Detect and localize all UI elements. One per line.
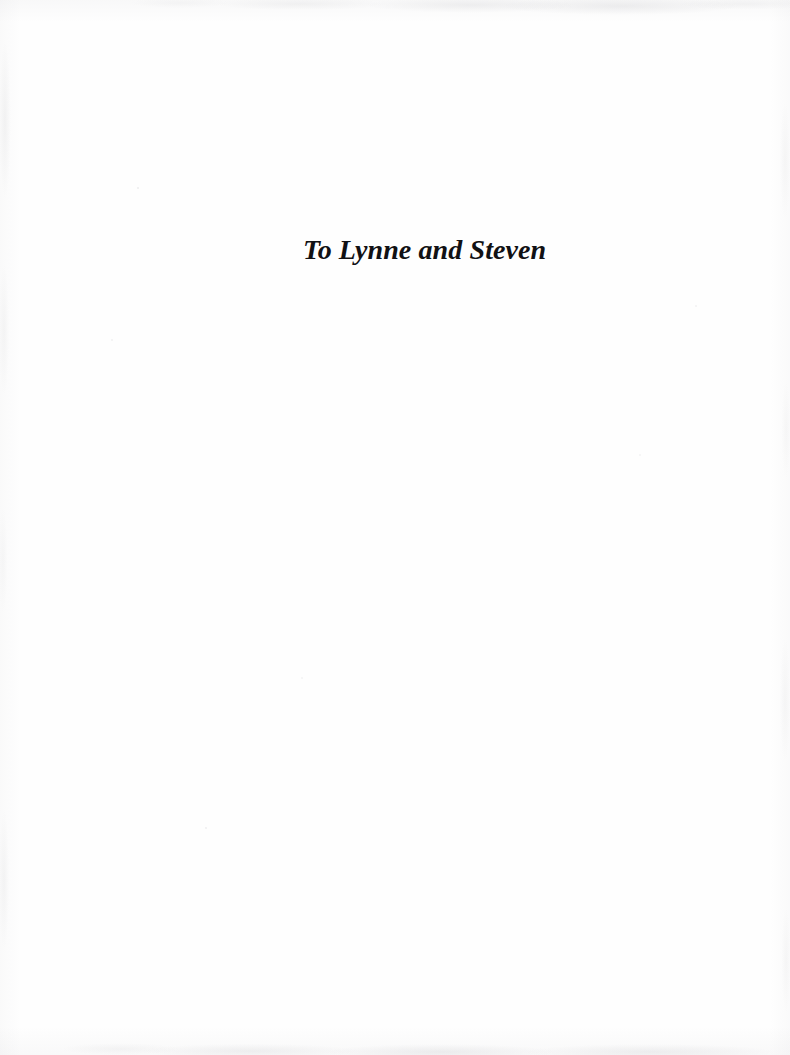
dedication-page: To Lynne and Steven: [0, 0, 790, 1055]
scan-smudge-top-icon: [0, 0, 790, 26]
dedication-text: To Lynne and Steven: [303, 234, 546, 266]
scan-smudge-bottom-icon: [0, 1021, 790, 1055]
scan-speckle-field: [0, 0, 790, 1055]
scan-smudge-right-icon: [766, 0, 790, 1055]
scan-smudge-left-icon: [0, 0, 24, 1055]
